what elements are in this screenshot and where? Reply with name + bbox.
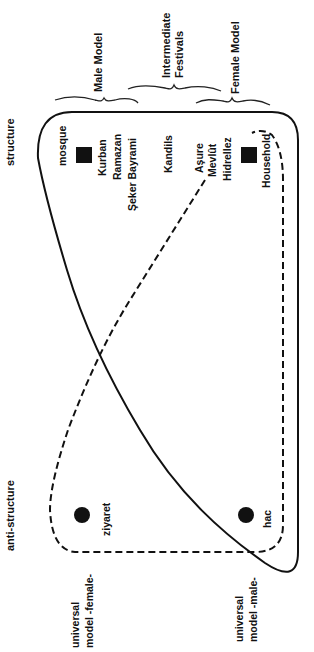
female-model-label: Female Model [229,21,241,94]
household-label: Household [260,134,272,188]
intermediate-festivals-label-line1: Intermediate [160,13,172,78]
universal-female-label-line2: model -female- [83,573,95,648]
ramazan-label: Ramazan [111,134,123,180]
female-model-dashed-boundary [50,131,283,552]
hac-label: hac [261,510,273,528]
male-model-brace [55,97,138,103]
kurban-label: Kurban [96,139,108,176]
structure-axis-label: structure [4,118,16,166]
ziyaret-circle-marker [74,507,90,523]
seker-bayrami-label: Şeker Bayrami [126,138,138,211]
hac-circle-marker [238,507,254,523]
universal-male-label-line1: universal [233,596,245,642]
mevlut-label: Mevlût [206,143,218,177]
mosque-label: mosque [56,126,68,166]
male-model-label: Male Model [92,33,104,92]
hidrellez-label: Hidrellez [221,137,233,181]
universal-male-label-line2: model -male- [247,577,259,642]
male-model-solid-boundary [38,112,298,572]
mosque-square-marker [76,147,92,163]
structure-anti-structure-diagram: structure anti-structure Male Model Inte… [0,0,314,652]
female-model-brace [196,98,270,105]
anti-structure-axis-label: anti-structure [4,480,16,551]
universal-female-label-line1: universal [69,602,81,648]
ziyaret-label: ziyaret [100,502,112,536]
asure-label: Aşure [193,143,205,173]
kandils-label: Kandils [162,135,174,173]
household-square-marker [241,147,257,163]
intermediate-festivals-brace [128,85,221,91]
intermediate-festivals-label-line2: Festivals [173,31,185,78]
